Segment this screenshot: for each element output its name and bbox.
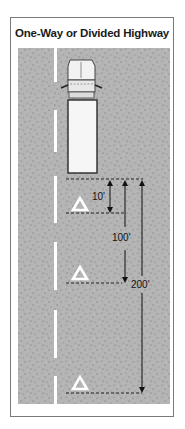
dimension-label-200ft: 200': [131, 279, 150, 290]
highway-diagram: 10' 100' 200': [0, 0, 185, 429]
dimension-label-10ft: 10': [92, 191, 105, 202]
dimension-label-100ft: 100': [112, 232, 131, 243]
